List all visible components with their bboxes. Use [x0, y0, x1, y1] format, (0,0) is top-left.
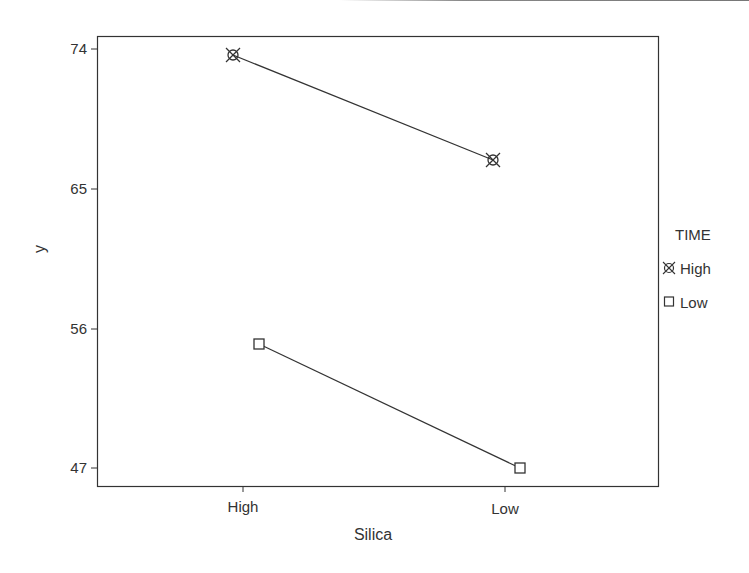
y-axis: 74 65 56 47 y	[31, 40, 97, 476]
x-tick-high: High	[228, 498, 259, 515]
x-axis: High Low Silica	[228, 486, 519, 543]
circle-x-marker	[226, 48, 240, 62]
legend: TIME High Low	[663, 226, 711, 311]
legend-item-low: Low	[680, 294, 708, 311]
x-axis-title: Silica	[354, 526, 392, 543]
legend-square-icon	[665, 297, 674, 306]
legend-item-high: High	[680, 260, 711, 277]
series-time-high	[226, 48, 500, 167]
y-tick-65: 65	[70, 180, 87, 197]
y-tick-74: 74	[70, 40, 87, 57]
y-axis-title: y	[31, 245, 48, 253]
x-tick-low: Low	[491, 500, 519, 517]
square-marker	[254, 339, 264, 349]
legend-title: TIME	[675, 226, 711, 243]
interaction-plot: 74 65 56 47 y High Low Silica TIME	[0, 0, 749, 573]
legend-circle-x-icon	[663, 262, 675, 274]
y-tick-56: 56	[70, 320, 87, 337]
y-tick-47: 47	[70, 459, 87, 476]
plot-frame	[98, 37, 659, 487]
circle-x-marker	[486, 153, 500, 167]
series-time-low	[254, 339, 525, 473]
square-marker	[515, 463, 525, 473]
